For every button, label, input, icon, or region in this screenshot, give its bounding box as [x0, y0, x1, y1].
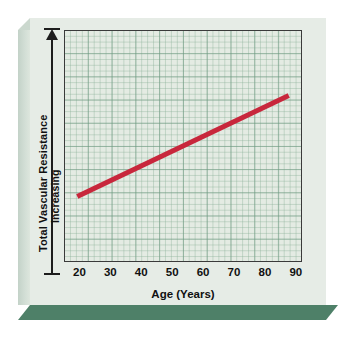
y-axis-subtitle: Increasing — [49, 169, 61, 223]
plaque-corner-bottom-right — [326, 305, 338, 320]
plaque-corner-bottom-left — [18, 305, 30, 320]
y-axis-cap-bottom — [44, 273, 60, 275]
y-axis-line — [51, 34, 53, 274]
plaque-bevel-bottom — [30, 305, 326, 320]
figure-root: Total Vascular Resistance Increasing 203… — [0, 0, 338, 338]
x-axis-tick-labels: 2030405060708090 — [64, 266, 302, 282]
x-tick-label-20: 20 — [73, 266, 86, 278]
x-tick-label-90: 90 — [289, 266, 302, 278]
trend-line-svg — [65, 31, 301, 261]
x-axis-title: Age (Years) — [64, 288, 302, 300]
x-tick-label-70: 70 — [228, 266, 241, 278]
x-tick-label-80: 80 — [259, 266, 272, 278]
x-tick-label-30: 30 — [104, 266, 117, 278]
trend-line — [77, 95, 288, 196]
plot-area — [64, 30, 302, 262]
x-tick-label-40: 40 — [135, 266, 148, 278]
y-axis-title: Total Vascular Resistance — [37, 115, 49, 252]
x-tick-label-50: 50 — [166, 266, 179, 278]
x-tick-label-60: 60 — [197, 266, 210, 278]
